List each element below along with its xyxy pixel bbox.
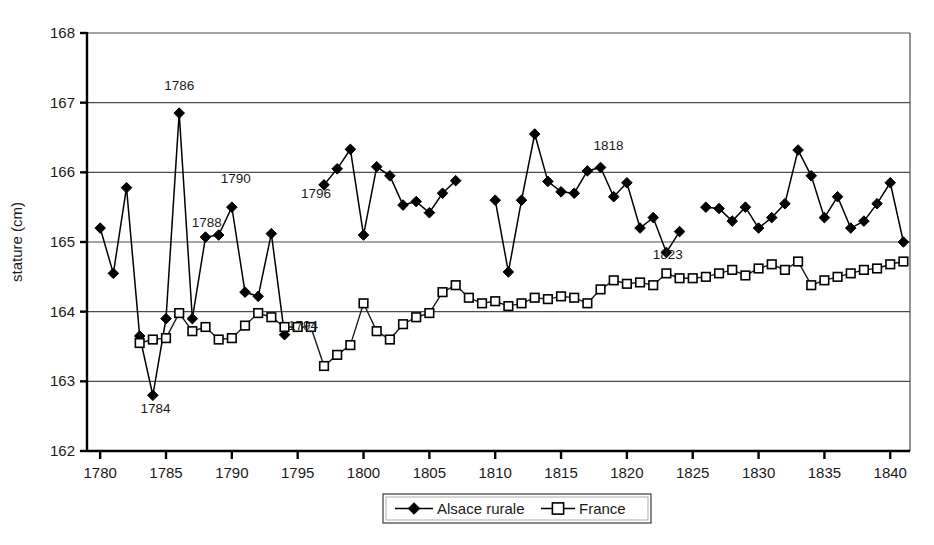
y-tick-label-163: 163	[50, 372, 75, 389]
datapoint-france-1830	[754, 264, 763, 273]
datapoint-france-1808	[465, 293, 474, 302]
datapoint-france-1790	[228, 334, 237, 343]
datapoint-alsace-rurale-1837	[845, 223, 856, 234]
annotation-1796: 1796	[301, 186, 331, 201]
datapoint-france-1837	[846, 269, 855, 278]
annotation-1818: 1818	[593, 138, 623, 153]
datapoint-france-1806	[438, 288, 447, 297]
datapoint-alsace-rurale-1793	[266, 228, 277, 239]
datapoint-france-1819	[609, 276, 618, 285]
annotation-1794: 1794	[288, 318, 319, 333]
datapoint-france-1798	[333, 351, 342, 360]
x-tick-label-1820: 1820	[610, 464, 643, 481]
stature-line-chart: 1621631641651661671681780178517901795180…	[0, 0, 934, 545]
datapoint-france-1784	[149, 335, 158, 344]
datapoint-alsace-rurale-1782	[121, 182, 132, 193]
x-tick-label-1815: 1815	[544, 464, 577, 481]
datapoint-alsace-rurale-1781	[108, 268, 119, 279]
datapoint-france-1800	[359, 299, 368, 308]
datapoint-france-1818	[596, 285, 605, 294]
x-tick-label-1805: 1805	[413, 464, 446, 481]
datapoint-alsace-rurale-1813	[529, 129, 540, 140]
x-tick-label-1835: 1835	[808, 464, 841, 481]
datapoint-france-1805	[425, 309, 434, 318]
x-tick-label-1830: 1830	[742, 464, 775, 481]
datapoint-alsace-rurale-1836	[832, 191, 843, 202]
datapoint-alsace-rurale-1812	[516, 195, 527, 206]
datapoint-alsace-rurale-1833	[793, 145, 804, 156]
x-tick-label-1795: 1795	[281, 464, 314, 481]
datapoint-alsace-rurale-1803	[398, 200, 409, 211]
annotation-1788: 1788	[192, 215, 222, 230]
datapoint-alsace-rurale-1791	[240, 287, 251, 298]
datapoint-france-1804	[412, 313, 421, 322]
datapoint-alsace-rurale-1817	[582, 166, 593, 177]
datapoint-france-1814	[544, 295, 553, 304]
datapoint-france-1817	[583, 299, 592, 308]
datapoint-alsace-rurale-1816	[569, 188, 580, 199]
datapoint-alsace-rurale-1826	[701, 202, 712, 213]
datapoint-alsace-rurale-1786	[174, 108, 185, 119]
annotation-1823: 1823	[653, 247, 683, 262]
datapoint-alsace-rurale-1840	[885, 177, 896, 188]
datapoint-alsace-rurale-1811	[503, 267, 514, 278]
x-tick-label-1800: 1800	[347, 464, 380, 481]
datapoint-france-1839	[873, 264, 882, 273]
datapoint-france-1785	[162, 334, 171, 343]
y-tick-label-165: 165	[50, 233, 75, 250]
x-tick-label-1810: 1810	[479, 464, 512, 481]
datapoint-alsace-rurale-1784	[148, 390, 159, 401]
datapoint-france-1788	[201, 323, 210, 332]
datapoint-france-1789	[214, 335, 223, 344]
x-tick-label-1825: 1825	[676, 464, 709, 481]
datapoint-france-1810	[491, 297, 500, 306]
datapoint-alsace-rurale-1810	[490, 195, 501, 206]
series-line-alsace-rurale-seg1	[324, 149, 456, 235]
datapoint-france-1836	[833, 273, 842, 282]
datapoint-alsace-rurale-1801	[371, 161, 382, 172]
datapoint-alsace-rurale-1787	[187, 313, 198, 324]
datapoint-france-1793	[267, 313, 276, 322]
datapoint-france-1840	[886, 260, 895, 269]
datapoint-alsace-rurale-1818	[595, 162, 606, 173]
datapoint-alsace-rurale-1799	[345, 144, 356, 155]
datapoint-alsace-rurale-1780	[95, 223, 106, 234]
datapoint-france-1783	[135, 339, 144, 348]
legend-label-france: France	[579, 500, 626, 517]
datapoint-alsace-rurale-1835	[819, 212, 830, 223]
y-tick-label-168: 168	[50, 24, 75, 41]
annotation-1786: 1786	[164, 78, 194, 93]
datapoint-alsace-rurale-1792	[253, 291, 264, 302]
datapoint-france-1807	[451, 281, 460, 290]
legend-label-alsace-rurale: Alsace rurale	[437, 500, 525, 517]
datapoint-france-1833	[794, 257, 803, 266]
datapoint-france-1791	[241, 321, 250, 330]
x-tick-label-1840: 1840	[874, 464, 907, 481]
datapoint-france-1812	[517, 299, 526, 308]
datapoint-france-1826	[702, 273, 711, 282]
datapoint-alsace-rurale-1789	[213, 230, 224, 241]
datapoint-alsace-rurale-1790	[227, 202, 238, 213]
datapoint-france-1822	[649, 281, 658, 290]
legend-marker-france	[552, 503, 563, 514]
datapoint-france-1828	[728, 266, 737, 275]
datapoint-france-1841	[899, 257, 908, 266]
datapoint-alsace-rurale-1824	[674, 226, 685, 237]
datapoint-france-1823	[662, 269, 671, 278]
datapoint-france-1829	[741, 271, 750, 280]
datapoint-france-1792	[254, 309, 263, 318]
datapoint-france-1827	[715, 269, 724, 278]
x-tick-label-1790: 1790	[215, 464, 248, 481]
datapoint-france-1801	[372, 327, 381, 336]
datapoint-france-1831	[767, 260, 776, 269]
x-tick-label-1785: 1785	[149, 464, 182, 481]
datapoint-france-1824	[675, 274, 684, 283]
datapoint-france-1821	[636, 278, 645, 287]
annotation-1790: 1790	[221, 171, 251, 186]
datapoint-france-1816	[570, 293, 579, 302]
x-tick-label-1780: 1780	[83, 464, 116, 481]
datapoint-alsace-rurale-1785	[161, 313, 172, 324]
chart-container: 1621631641651661671681780178517901795180…	[0, 0, 934, 545]
annotation-1784: 1784	[140, 401, 171, 416]
datapoint-france-1786	[175, 309, 184, 318]
